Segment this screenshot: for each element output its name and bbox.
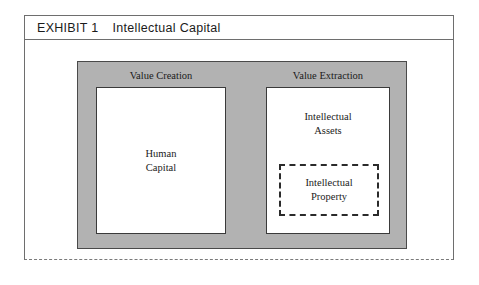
intellectual-assets-box: IntellectualAssets IntellectualProperty xyxy=(266,87,390,234)
human-capital-box: HumanCapital xyxy=(96,87,226,234)
intellectual-property-label: IntellectualProperty xyxy=(281,176,377,204)
column-value-creation: Value Creation HumanCapital xyxy=(96,62,226,248)
column-label-value-creation: Value Creation xyxy=(96,70,226,81)
exhibit-header: EXHIBIT 1 Intellectual Capital xyxy=(25,16,453,40)
column-value-extraction: Value Extraction IntellectualAssets Inte… xyxy=(266,62,390,248)
exhibit-title: Intellectual Capital xyxy=(113,21,221,35)
intellectual-capital-panel: Value Creation HumanCapital Value Extrac… xyxy=(77,61,407,249)
intellectual-assets-label: IntellectualAssets xyxy=(267,110,389,138)
exhibit-frame: EXHIBIT 1 Intellectual Capital Value Cre… xyxy=(24,15,454,260)
column-label-value-extraction: Value Extraction xyxy=(266,70,390,81)
intellectual-property-box: IntellectualProperty xyxy=(279,164,379,216)
exhibit-number-label: EXHIBIT 1 xyxy=(37,21,99,35)
human-capital-label: HumanCapital xyxy=(97,147,225,175)
